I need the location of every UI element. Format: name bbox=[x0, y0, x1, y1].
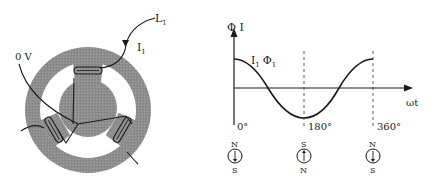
label-I1: I1 bbox=[137, 41, 146, 56]
tick-0: 0° bbox=[237, 121, 248, 132]
label-L1: L1 bbox=[155, 12, 167, 27]
pole-bottom-label: N bbox=[300, 166, 307, 175]
pole-indicator-360: N S bbox=[366, 140, 380, 175]
y-axis-label: Φ I bbox=[227, 21, 244, 34]
figure-canvas: L1 I1 0 V Φ I I1Φ1 ωt 0° 180° 360° N S bbox=[0, 0, 431, 190]
figure-svg: L1 I1 0 V Φ I I1Φ1 ωt 0° 180° 360° N S bbox=[0, 0, 431, 190]
pole-indicator-0: N S bbox=[228, 140, 242, 175]
pole-bottom-label: S bbox=[232, 166, 237, 175]
current-arrow-icon bbox=[122, 40, 129, 47]
motor-diagram: L1 I1 0 V bbox=[15, 12, 167, 173]
pole-top-label: N bbox=[369, 140, 376, 149]
arrow-up-icon bbox=[302, 150, 306, 153]
x-axis-arrow-icon bbox=[404, 85, 413, 92]
x-axis-label: ωt bbox=[406, 97, 418, 108]
pole-top-label: S bbox=[301, 140, 306, 149]
series-label: I1Φ1 bbox=[251, 54, 276, 69]
arrow-down-icon bbox=[233, 159, 237, 162]
pole-top-label: N bbox=[231, 140, 238, 149]
pole-bottom-label: S bbox=[370, 166, 375, 175]
pole-indicator-180: S N bbox=[297, 140, 311, 175]
tick-360: 360° bbox=[377, 121, 401, 132]
rotor bbox=[59, 79, 117, 137]
label-0V: 0 V bbox=[15, 51, 33, 62]
pole-indicators: N S S N N S bbox=[228, 140, 380, 175]
tick-180: 180° bbox=[308, 121, 332, 132]
arrow-down-icon bbox=[371, 159, 375, 162]
waveform-chart: Φ I I1Φ1 ωt 0° 180° 360° bbox=[227, 21, 418, 132]
